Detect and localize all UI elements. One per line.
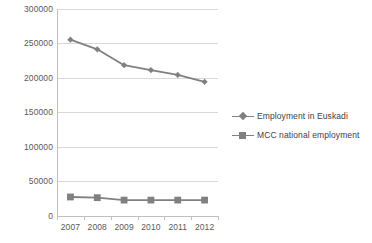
data-point-diamond-icon [175, 72, 181, 78]
data-point-diamond-icon [148, 67, 154, 73]
legend-square-marker-icon [232, 130, 254, 140]
data-point-diamond-icon [67, 37, 73, 43]
data-point-square-icon [67, 194, 74, 201]
series-line [70, 197, 204, 200]
chart-container: 300000250000200000150000100000500000 200… [0, 0, 372, 243]
data-point-square-icon [121, 197, 128, 204]
data-point-square-icon [201, 197, 208, 204]
data-point-square-icon [148, 197, 155, 204]
data-point-square-icon [174, 197, 181, 204]
data-point-diamond-icon [201, 79, 207, 85]
legend-item-employment-in-euskadi: Employment in Euskadi [232, 108, 372, 124]
legend-diamond-marker-icon [232, 111, 254, 121]
legend-item-label: MCC national employment [257, 130, 359, 140]
legend-item-mcc-national-employment: MCC national employment [232, 127, 372, 143]
legend-item-label: Employment in Euskadi [257, 111, 348, 121]
series-line [70, 40, 204, 82]
data-point-square-icon [94, 194, 101, 201]
chart-legend: Employment in Euskadi MCC national emplo… [232, 108, 372, 146]
